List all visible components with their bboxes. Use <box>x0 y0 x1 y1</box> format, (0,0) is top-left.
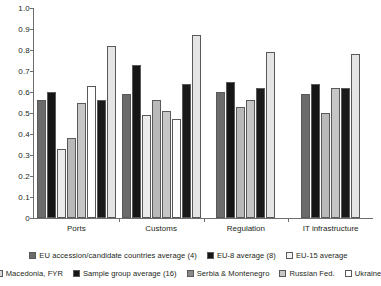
bar[interactable] <box>236 107 245 218</box>
bar-group-it-infrastructure <box>288 8 373 218</box>
bar[interactable] <box>341 88 350 218</box>
legend-swatch-icon <box>73 270 80 277</box>
y-tick-label: 0.9 <box>18 25 30 34</box>
legend-item[interactable]: EU accession/candidate countries average… <box>29 251 197 260</box>
y-tick-mark <box>30 71 33 72</box>
bar[interactable] <box>47 92 56 218</box>
bar[interactable] <box>132 65 141 218</box>
legend-label: Ukraine <box>355 269 381 278</box>
legend-item[interactable]: Russian Fed. <box>279 269 334 278</box>
y-tick-mark <box>30 176 33 177</box>
bar[interactable] <box>351 54 360 218</box>
legend-swatch-icon <box>29 252 36 259</box>
y-tick-mark <box>30 92 33 93</box>
legend-item[interactable]: EU-8 average (8) <box>207 251 276 260</box>
y-tick-mark <box>30 113 33 114</box>
bar[interactable] <box>216 92 225 218</box>
bar[interactable] <box>142 115 151 218</box>
bar[interactable] <box>321 113 330 218</box>
y-tick-mark <box>30 155 33 156</box>
legend-swatch-icon <box>345 270 352 277</box>
legend-label: EU-8 average (8) <box>217 251 276 260</box>
bar[interactable] <box>77 103 86 219</box>
bar-groups <box>34 8 373 218</box>
bar[interactable] <box>122 94 131 218</box>
legend-row: EU accession/candidate countries average… <box>0 246 377 264</box>
y-axis: 1.00.90.80.70.60.50.40.30.20.10 <box>0 6 30 218</box>
legend-label: EU-15 average <box>296 251 348 260</box>
x-axis-label: IT infrastructure <box>288 224 373 238</box>
bar[interactable] <box>192 35 201 218</box>
bar[interactable] <box>331 88 340 218</box>
y-tick-mark <box>30 29 33 30</box>
y-tick-mark <box>30 218 33 219</box>
y-tick-label: 0.4 <box>18 130 30 139</box>
y-tick-label: 0.7 <box>18 67 30 76</box>
legend-swatch-icon <box>279 270 286 277</box>
y-tick-mark <box>30 197 33 198</box>
bar[interactable] <box>107 46 116 218</box>
legend-label: EU accession/candidate countries average… <box>39 251 197 260</box>
legend-swatch-icon <box>286 252 293 259</box>
y-tick-label: 1.0 <box>18 4 30 13</box>
chart-legend: EU accession/candidate countries average… <box>0 246 377 286</box>
bar[interactable] <box>172 119 181 218</box>
legend-label: Sample group average (16) <box>83 269 177 278</box>
bar-group-ports <box>34 8 119 218</box>
y-tick-label: 0.5 <box>18 109 30 118</box>
x-axis-labels: PortsCustomsRegulationIT infrastructure <box>34 224 373 238</box>
bar[interactable] <box>246 100 255 218</box>
legend-label: Russian Fed. <box>289 269 334 278</box>
legend-item[interactable]: Sample group average (16) <box>73 269 177 278</box>
plot-area: 1.00.90.80.70.60.50.40.30.20.10 PortsCus… <box>0 6 377 238</box>
y-tick-label: 0.3 <box>18 151 30 160</box>
y-tick-label: 0.8 <box>18 46 30 55</box>
y-tick-mark <box>30 8 33 9</box>
y-tick-label: 0.6 <box>18 88 30 97</box>
bar[interactable] <box>266 52 275 218</box>
bar[interactable] <box>152 100 161 218</box>
x-axis-label: Regulation <box>204 224 289 238</box>
y-tick-mark <box>30 50 33 51</box>
bar-group-customs <box>119 8 204 218</box>
x-axis-label: Customs <box>119 224 204 238</box>
bar[interactable] <box>256 88 265 218</box>
bar[interactable] <box>301 94 310 218</box>
bar[interactable] <box>182 84 191 218</box>
legend-item[interactable]: Macedonia, FYR <box>0 269 63 278</box>
legend-swatch-icon <box>187 270 194 277</box>
legend-swatch-icon <box>0 270 3 277</box>
legend-swatch-icon <box>207 252 214 259</box>
bar[interactable] <box>311 84 320 218</box>
bar[interactable] <box>87 86 96 218</box>
x-axis-label: Ports <box>34 224 119 238</box>
group-separator-tick <box>288 218 289 222</box>
bar[interactable] <box>97 100 106 218</box>
legend-item[interactable]: EU-15 average <box>286 251 348 260</box>
bar-group-regulation <box>204 8 289 218</box>
bar[interactable] <box>57 149 66 218</box>
group-separator-tick <box>204 218 205 222</box>
group-separator-tick <box>119 218 120 222</box>
bar[interactable] <box>67 138 76 218</box>
bar[interactable] <box>37 100 46 218</box>
legend-row: Macedonia, FYRSample group average (16)S… <box>0 264 377 282</box>
legend-label: Serbia & Montenegro <box>197 269 270 278</box>
y-tick-mark <box>30 134 33 135</box>
legend-label: Macedonia, FYR <box>6 269 63 278</box>
bar[interactable] <box>226 82 235 219</box>
legend-item[interactable]: Ukraine <box>345 269 381 278</box>
y-tick-label: 0.1 <box>18 193 30 202</box>
bar[interactable] <box>162 111 171 218</box>
legend-item[interactable]: Serbia & Montenegro <box>187 269 270 278</box>
y-tick-label: 0.2 <box>18 172 30 181</box>
